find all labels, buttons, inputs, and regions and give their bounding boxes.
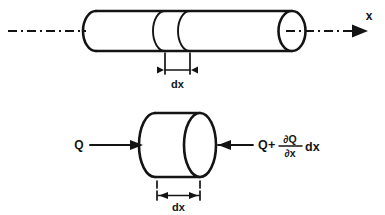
control-volume-group: Q Q + ∂Q ∂x dx dx [74,113,319,213]
inflow-label: Q [74,138,83,152]
outflow-numerator: ∂Q [283,133,296,145]
bottom-dim-arrow-left [159,192,168,199]
top-dim-arrow-right [191,67,198,74]
figure-container: x dx Q [0,0,385,215]
outflow-base-symbol: Q [258,138,268,152]
bottom-dim-arrow-right [189,192,198,199]
outflow-plus-sign: + [268,138,275,152]
disk-right-face [184,113,216,177]
outflow-denominator: ∂x [284,147,295,159]
inflow-arrowhead [130,140,143,150]
slice-arc-left [153,11,165,51]
outflow-arrowhead [218,140,231,150]
outflow-expression: Q + ∂Q ∂x dx [258,133,320,159]
top-dx-label: dx [171,78,185,90]
diagram-canvas: x dx Q [0,0,385,215]
top-dim-arrow-left [157,67,164,74]
x-axis-arrowhead [352,25,368,38]
slice-arc-right [178,11,190,51]
outflow-trailing-dx: dx [305,140,320,154]
x-axis-label: x [366,9,373,23]
top-rod-group: x dx [8,9,373,90]
bottom-dx-label: dx [172,201,186,213]
